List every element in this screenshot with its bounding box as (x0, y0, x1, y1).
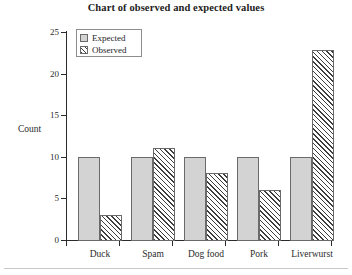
chart-figure: Chart of observed and expected values Co… (0, 0, 352, 275)
y-axis-title: Count (18, 124, 41, 134)
y-tick-25 (61, 32, 66, 33)
legend-item-observed: Observed (80, 44, 138, 56)
bar-expected-spam (131, 157, 153, 241)
bar-expected-dog-food (184, 157, 206, 241)
legend-label-expected: Expected (92, 33, 125, 43)
bar-observed-dog-food (206, 173, 228, 241)
x-tick-label-duck: Duck (70, 249, 130, 260)
bar-observed-duck (100, 215, 122, 241)
y-tick-10 (61, 157, 66, 158)
bar-expected-liverwurst (290, 157, 312, 241)
y-tick-label-15: 15 (33, 111, 59, 120)
legend-swatch-observed-icon (80, 46, 88, 54)
y-tick-20 (61, 74, 66, 75)
bar-expected-pork (237, 157, 259, 241)
legend-item-expected: Expected (80, 32, 138, 44)
bar-observed-spam (153, 148, 175, 241)
x-tick-label-pork: Pork (229, 249, 289, 260)
x-tick-label-liverwurst: Liverwurst (282, 249, 342, 260)
x-group-tick-0 (66, 241, 67, 246)
bar-expected-duck (78, 157, 100, 241)
bar-observed-pork (259, 190, 281, 241)
y-tick-label-5: 5 (33, 194, 59, 203)
x-tick-label-spam: Spam (123, 249, 183, 260)
chart-title: Chart of observed and expected values (0, 2, 352, 13)
x-group-tick-2 (172, 241, 173, 246)
bottom-divider (4, 268, 348, 269)
y-axis-line (66, 31, 67, 241)
legend-label-observed: Observed (92, 45, 127, 55)
x-group-tick-3 (225, 241, 226, 246)
legend-swatch-expected-icon (80, 34, 88, 42)
x-group-tick-4 (278, 241, 279, 246)
x-tick-label-dog-food: Dog food (176, 249, 236, 260)
y-tick-label-10: 10 (33, 153, 59, 162)
y-tick-15 (61, 115, 66, 116)
x-group-tick-5 (331, 241, 332, 246)
x-group-tick-1 (119, 241, 120, 246)
y-tick-label-0: 0 (33, 236, 59, 245)
chart-legend: Expected Observed (76, 29, 142, 57)
y-tick-label-25: 25 (33, 28, 59, 37)
bar-observed-liverwurst (312, 50, 334, 241)
y-tick-5 (61, 198, 66, 199)
y-tick-label-20: 20 (33, 70, 59, 79)
